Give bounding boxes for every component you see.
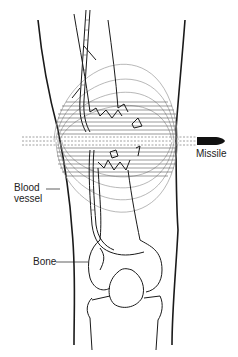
- bone-label: Bone: [33, 256, 56, 267]
- missile-track: [22, 137, 196, 145]
- missile-icon: [197, 137, 225, 145]
- leg-outline: [38, 20, 185, 345]
- blood-vessel-label: Blood vessel: [14, 182, 42, 204]
- knee-wound-diagram: [0, 0, 238, 357]
- blood-vessel-label-line1: Blood: [14, 182, 42, 193]
- blood-vessel-label-line2: vessel: [14, 193, 42, 204]
- missile-label: Missile: [196, 148, 227, 159]
- label-leaders: [46, 189, 88, 262]
- blood-vessel: [72, 10, 144, 270]
